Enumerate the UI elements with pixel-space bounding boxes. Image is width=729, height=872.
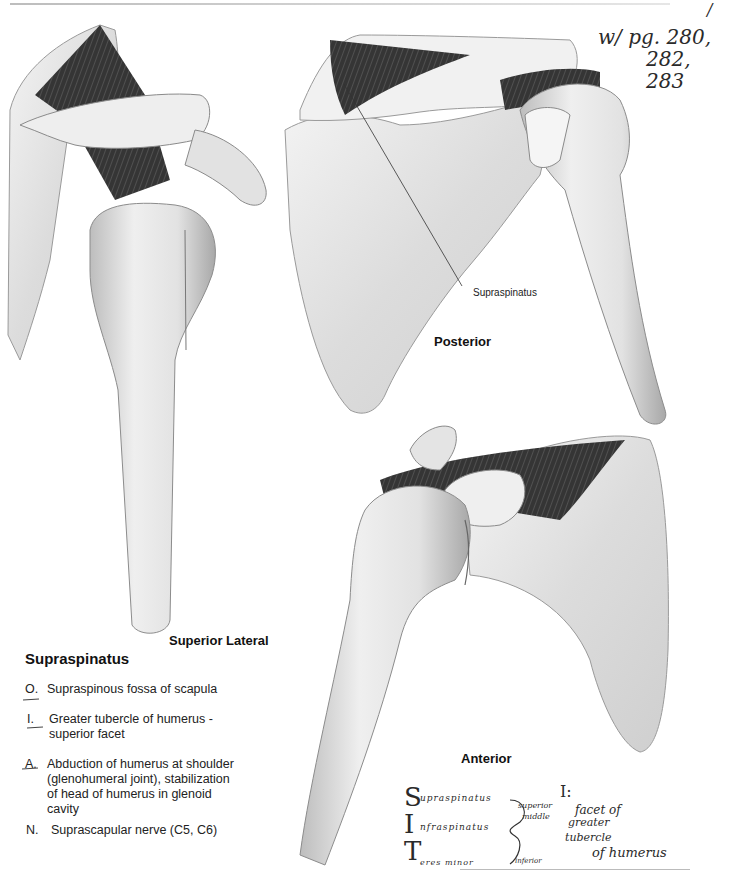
insertion-note-line: facet of [575,803,621,817]
insertion-note-line: of humerus [592,845,667,860]
insertion-note-line: tubercle [565,831,612,844]
mnemonic-brace [0,0,729,872]
bottom-rule [460,869,690,870]
insertion-heading: I: [560,782,572,801]
insertion-note-line: greater [568,816,610,829]
